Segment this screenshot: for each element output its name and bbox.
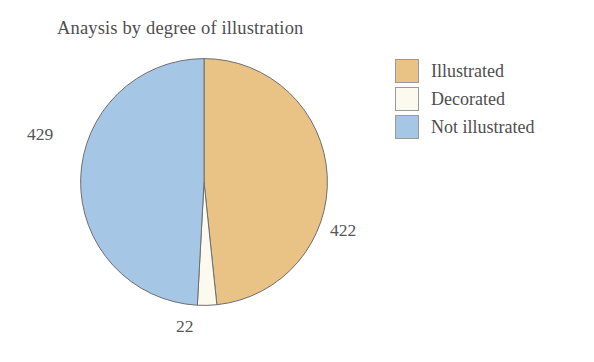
slice-value-decorated: 22 bbox=[176, 316, 194, 337]
legend-swatch-illustrated bbox=[395, 59, 419, 83]
legend-item-not-illustrated: Not illustrated bbox=[395, 113, 591, 141]
legend-item-decorated: Decorated bbox=[395, 85, 591, 113]
pie-slice-group bbox=[81, 59, 328, 306]
legend-label-illustrated: Illustrated bbox=[431, 62, 504, 80]
slice-value-illustrated: 422 bbox=[330, 220, 356, 241]
slice-value-not-illustrated: 429 bbox=[27, 124, 53, 145]
legend-item-illustrated: Illustrated bbox=[395, 57, 591, 85]
legend-swatch-not-illustrated bbox=[395, 115, 419, 139]
pie-svg bbox=[80, 58, 328, 306]
legend-label-not-illustrated: Not illustrated bbox=[431, 118, 534, 136]
legend-swatch-decorated bbox=[395, 87, 419, 111]
pie-slice-illustrated bbox=[204, 59, 327, 305]
pie-slice-not-illustrated bbox=[81, 59, 204, 306]
pie-plot-area bbox=[80, 58, 328, 306]
pie-chart-figure: Anaysis by degree of illustration 429 42… bbox=[0, 0, 594, 362]
legend-label-decorated: Decorated bbox=[431, 90, 505, 108]
chart-title: Anaysis by degree of illustration bbox=[57, 18, 303, 39]
chart-legend: Illustrated Decorated Not illustrated bbox=[395, 57, 591, 141]
